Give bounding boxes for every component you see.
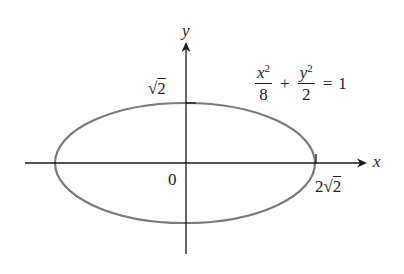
rhs-value: 1 <box>338 75 347 92</box>
exponent: 2 <box>307 62 313 74</box>
origin-label: 0 <box>168 171 177 188</box>
fraction-y: y2 2 <box>298 63 315 103</box>
ellipse-diagram: y x 0 √2 2√2 x2 8 + y2 2 = 1 <box>0 0 404 274</box>
radicand: 2 <box>333 177 342 196</box>
ellipse-equation: x2 8 + y2 2 = 1 <box>253 63 347 103</box>
fraction-denominator: 2 <box>302 84 311 103</box>
coefficient: 2 <box>315 177 324 196</box>
exponent: 2 <box>265 62 271 74</box>
radicand: 2 <box>157 79 166 98</box>
equals-sign: = <box>323 75 333 92</box>
y-intercept-label: √2 <box>148 80 166 97</box>
fraction-numerator: x2 <box>255 63 272 84</box>
fraction-x: x2 8 <box>255 63 272 103</box>
x-axis-label: x <box>373 153 381 170</box>
x-intercept-label: 2√2 <box>315 178 341 195</box>
radical-sign: √ <box>324 177 333 196</box>
radical-sign: √ <box>148 79 157 98</box>
variable-x: x <box>257 63 265 82</box>
plus-sign: + <box>280 75 290 92</box>
diagram-canvas <box>0 0 404 274</box>
fraction-denominator: 8 <box>259 84 268 103</box>
fraction-numerator: y2 <box>298 63 315 84</box>
y-axis-label: y <box>182 22 190 39</box>
